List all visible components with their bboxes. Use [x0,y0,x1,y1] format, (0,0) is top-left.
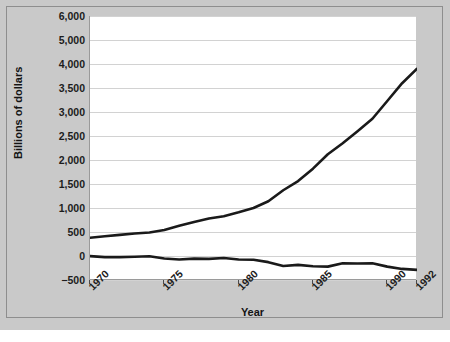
plot-area [89,16,416,280]
series-lines [90,16,417,280]
y-axis-tick-labels: 6,0005,0004,0003,5003,0002,5002,0001,500… [24,16,85,280]
y-axis-tick-label: 5,000 [59,35,85,46]
series-line-deficit [90,256,417,270]
y-axis-tick-label: 0 [79,251,85,262]
y-axis-tick-label: 3,500 [59,83,85,94]
y-axis-tick-label: 6,000 [59,11,85,22]
y-axis-tick-label: 4,000 [59,59,85,70]
y-axis-tick-label: −500 [61,275,85,286]
caption-strip [0,330,450,342]
x-axis-title: Year [89,306,416,318]
y-axis-tick-label: 1,500 [59,179,85,190]
y-axis-tick-label: 1,000 [59,203,85,214]
y-axis-tick-mark [108,280,113,281]
y-axis-tick-label: 2,000 [59,155,85,166]
y-axis-tick-label: 3,000 [59,107,85,118]
series-line-debt [90,69,417,238]
chart-figure: Billions of dollars 6,0005,0004,0003,500… [0,0,450,342]
y-axis-title: Billions of dollars [12,69,24,159]
y-axis-tick-label: 2,500 [59,131,85,142]
y-axis-tick-label: 500 [67,227,85,238]
